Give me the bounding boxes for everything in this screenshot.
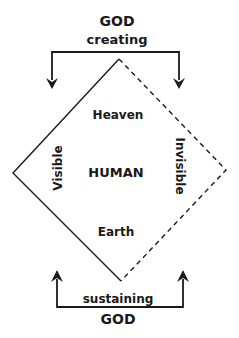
visible-label: Visible bbox=[51, 145, 65, 190]
creating-bracket bbox=[46, 52, 185, 89]
creating-bracket-line bbox=[52, 52, 179, 80]
earth-label: Earth bbox=[98, 225, 135, 239]
sustaining-label: sustaining bbox=[83, 292, 154, 306]
human-label: HUMAN bbox=[88, 165, 143, 180]
bottom-god-label: GOD bbox=[100, 311, 135, 327]
heaven-label: Heaven bbox=[93, 108, 144, 122]
invisible-label: Invisible bbox=[173, 137, 187, 194]
top-god-label: GOD bbox=[99, 13, 134, 29]
human-diamond-diagram: GOD creating Heaven HUMAN Earth Visible … bbox=[0, 0, 239, 338]
creating-label: creating bbox=[87, 32, 148, 47]
